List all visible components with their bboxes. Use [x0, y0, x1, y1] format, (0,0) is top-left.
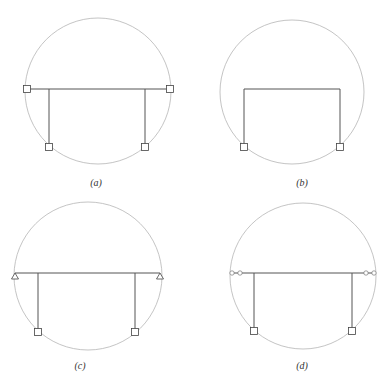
portal-frame [244, 89, 340, 147]
fixed-support-square-icon [132, 329, 139, 336]
panel-c-label: (c) [74, 360, 85, 371]
fixed-support-square-icon [251, 328, 258, 335]
fixed-support-square-icon [167, 86, 174, 93]
fixed-support-square-icon [241, 144, 248, 151]
panel-d-label: (d) [296, 360, 308, 371]
hinge-circle-icon [372, 271, 376, 275]
fixed-support-square-icon [349, 328, 356, 335]
hinge-circle-icon [364, 271, 368, 275]
panel-a [24, 18, 174, 164]
fixed-support-square-icon [46, 144, 53, 151]
panel-a-label: (a) [90, 177, 102, 188]
hinge-circle-icon [230, 271, 234, 275]
panel-b-label: (b) [296, 177, 308, 188]
panel-c [12, 202, 164, 350]
hinge-circle-icon [238, 271, 242, 275]
fixed-support-square-icon [337, 144, 344, 151]
fixed-support-square-icon [35, 329, 42, 336]
boundary-circle [220, 20, 364, 164]
panel-b [220, 20, 364, 164]
boundary-circle [25, 18, 171, 164]
panel-d [230, 203, 376, 349]
fixed-support-square-icon [24, 86, 31, 93]
boundary-circle [14, 202, 162, 350]
fixed-support-square-icon [142, 144, 149, 151]
pin-support-triangle-icon [157, 273, 164, 279]
diagram-canvas [0, 0, 389, 380]
pin-support-triangle-icon [12, 273, 19, 279]
